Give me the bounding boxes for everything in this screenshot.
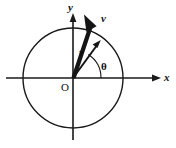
arrow-right-icon <box>152 75 161 82</box>
x-axis-label: x <box>164 72 170 83</box>
angle-arc <box>88 55 101 79</box>
vector-label: v <box>101 13 106 24</box>
arrow-up-icon <box>70 13 77 22</box>
arrow-upright-small-icon <box>93 40 101 48</box>
diagram-canvas <box>0 0 176 148</box>
polar-vector-diagram: y x v r θ O <box>0 0 176 148</box>
radius-label: r <box>79 48 83 58</box>
angle-label: θ <box>101 61 107 72</box>
origin-label: O <box>61 82 69 93</box>
y-axis-label: y <box>68 2 73 13</box>
